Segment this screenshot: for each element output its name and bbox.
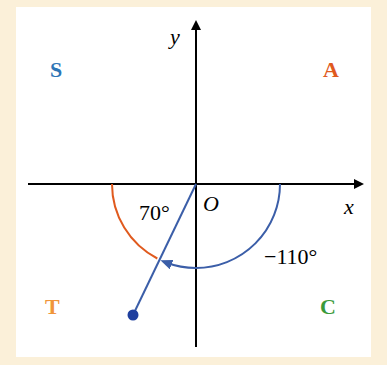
rotation-angle-label: −110°	[264, 244, 317, 270]
quadrant-label-s: S	[50, 57, 62, 83]
quadrant-label-t: T	[45, 294, 60, 320]
terminal-point	[128, 310, 139, 321]
origin-label: O	[203, 191, 219, 217]
reference-angle-label: 70°	[139, 200, 170, 226]
rotation-angle-arc	[166, 184, 280, 268]
quadrant-label-a: A	[323, 57, 339, 83]
quadrant-label-c: C	[320, 294, 336, 320]
y-axis-label: y	[170, 24, 180, 50]
x-axis-label: x	[344, 194, 354, 220]
